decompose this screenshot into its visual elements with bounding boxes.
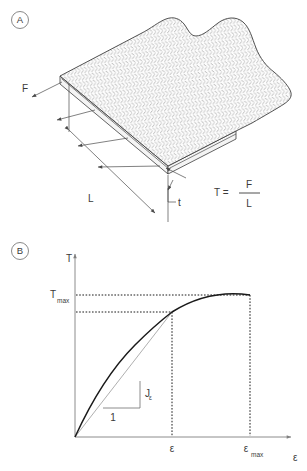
thickness-label: t [178,197,181,208]
x-tick-epsilon: ε [170,443,175,454]
length-label: L [88,193,94,204]
panel-b-tag: B [12,243,29,260]
figure-root: A F L [0,0,307,471]
slab-top-face [60,18,291,166]
slope-run-label: 1 [110,412,116,423]
slope-rise-subscript: ε [149,394,152,401]
panel-a-tag: A [12,12,29,29]
y-tick-subscript: max [57,297,70,304]
x-tick-epsilon-max: ε max [244,443,264,458]
equation-numerator: F [246,179,252,190]
panel-b: B T ε 1 J ε T max ε [12,243,299,464]
y-tick-tmax: T max [50,289,70,304]
panel-b-tag-label: B [17,245,23,256]
y-tick-symbol: T [50,289,56,300]
slope-rise-label: J ε [145,388,152,401]
x-tick-epsilon-max-subscript: max [251,451,264,458]
tension-curve [75,294,250,437]
x-axis-label: ε [293,452,298,463]
secant-line [75,312,172,437]
equation-lhs: T = [214,187,229,198]
panel-a: A F L [12,12,292,223]
panel-a-tag-label: A [17,14,24,25]
equation-denominator: L [246,198,252,209]
y-axis-label: T [66,253,72,264]
force-label: F [22,83,28,94]
slope-triangle [103,381,140,408]
x-tick-epsilon-max-symbol: ε [244,443,249,454]
tension-equation: T = F L [214,179,260,209]
figure-svg: A F L [0,0,307,471]
